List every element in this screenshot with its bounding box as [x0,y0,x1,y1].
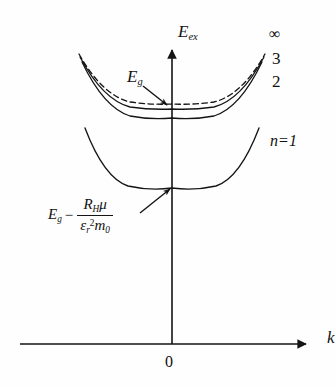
exciton-dispersion-figure: Eex k 0 ∞ 3 2 n=1 Eg Eg − RHμ εr2m0 [0,0,335,387]
formula-minus-operator: − [65,208,73,223]
origin-label: 0 [165,354,173,370]
formula-fraction: RHμ εr2m0 [77,196,113,234]
formula-denominator: εr2m0 [77,216,113,235]
x-axis-label: k [327,329,335,346]
pointer-arrow-binding-energy [140,189,170,213]
binding-energy-formula: Eg − RHμ εr2m0 [48,196,113,234]
curve-label-n1: n=1 [270,133,297,149]
pointer-arrow-band-gap [143,86,167,105]
formula-lead-term: Eg [48,207,62,224]
band-gap-label: Eg [127,68,143,87]
curve-label-n3: 3 [272,50,281,67]
curve-label-n2: 2 [272,73,281,90]
curve-label-infinity: ∞ [269,26,280,42]
formula-numerator: RHμ [80,196,109,215]
y-axis-label: Eex [178,23,198,42]
plot-canvas [0,0,335,387]
